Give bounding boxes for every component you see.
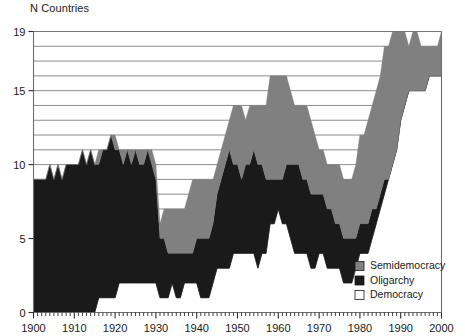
legend-label: Oligarchy: [370, 274, 415, 286]
y-axis-ticks: 05101519: [13, 26, 33, 319]
y-tick-label: 5: [19, 233, 25, 245]
legend-label: Democracy: [370, 288, 424, 300]
x-tick-label: 1950: [225, 322, 249, 334]
y-tick-label: 0: [19, 307, 25, 319]
legend-label: Semidemocracy: [370, 259, 446, 271]
y-tick-label: 10: [13, 159, 25, 171]
x-tick-label: 1920: [103, 322, 127, 334]
legend-swatch-oligarchy: [355, 276, 364, 285]
legend-swatch-semidemocracy: [355, 262, 364, 271]
x-tick-label: 1930: [144, 322, 168, 334]
area-chart-svg: 05101519 1900191019201930194019501960197…: [0, 0, 465, 336]
x-tick-label: 1940: [184, 322, 208, 334]
x-tick-label: 1980: [348, 322, 372, 334]
x-tick-label: 1990: [388, 322, 412, 334]
y-tick-label: 19: [13, 26, 25, 38]
x-tick-label: 2000: [429, 322, 453, 334]
x-tick-label: 1970: [307, 322, 331, 334]
x-tick-label: 1960: [266, 322, 290, 334]
x-tick-label: 1900: [21, 322, 45, 334]
legend-swatch-democracy: [355, 291, 364, 300]
x-axis-ticks: 1900191019201930194019501960197019801990…: [21, 313, 453, 334]
x-tick-label: 1910: [62, 322, 86, 334]
y-tick-label: 15: [13, 85, 25, 97]
chart-container: N Countries 05101519 1900191019201930194…: [0, 0, 465, 336]
